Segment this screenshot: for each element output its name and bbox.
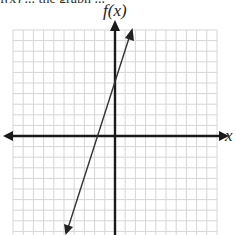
y-axis-label: f(x) <box>103 1 127 21</box>
x-axis-left-arrow-icon <box>3 131 13 141</box>
x-axis-label: x <box>225 126 233 146</box>
coordinate-graph: f(x) ... the graph ... f(x) x <box>0 0 236 235</box>
plot-area <box>0 0 236 235</box>
line-bottom-arrow-icon <box>64 224 73 235</box>
y-axis <box>110 20 120 235</box>
y-axis-up-arrow-icon <box>110 20 120 31</box>
